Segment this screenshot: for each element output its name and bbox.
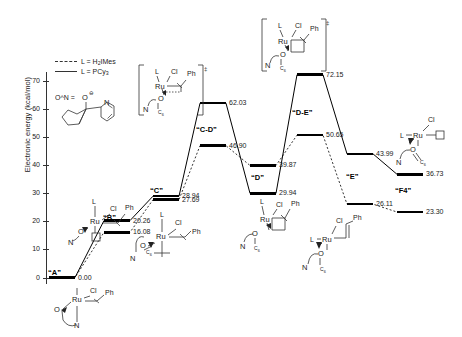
legend-swatch-dashed [55,61,77,62]
state-label-3: “C-D” [196,125,217,134]
o-label: O [318,249,324,258]
energy-level-2-pcy3 [153,195,179,198]
ph-label: Ph [310,25,319,32]
legend: L = H2IMes L = PCy3 [55,56,116,76]
energy-level-5-h2imes [297,134,323,137]
c6-label: C6 [320,266,326,274]
structure-f4: Cl L Ru O N C6 [396,108,462,168]
o-label: O [280,50,286,59]
energy-level-6-h2imes [347,203,373,206]
o-label: O [54,305,60,314]
bracket-right [198,65,203,115]
cl-label: Cl [171,68,178,75]
ru-label: Ru [278,37,288,46]
cl-label: Cl [336,217,343,224]
negative-charge-icon: ⊖ [89,90,94,96]
structure-c: L Cl Ru Ph O N C6 [130,205,212,267]
state-label-0: “A” [48,268,61,277]
structure-e: Cl Ph L Ru O N C6 [296,210,380,276]
ph-label: Ph [291,200,300,207]
structure-cd-ts: ‡ L Cl Ph Ru O N C6 [136,62,208,120]
n-label: N [302,263,307,272]
cl-label: Cl [90,287,97,294]
cl-label: Cl [175,219,182,226]
energy-profile-figure: 010203040506070 Electronic energy (kcal/… [0,0,462,337]
l-label: L [155,68,159,75]
ligand-definition: O^N = O ⊖ N [55,88,145,137]
legend-entry-h2imes: L = H2IMes [55,56,116,66]
legend-entry-pcy3: L = PCy3 [55,66,116,76]
energy-value-5-h2imes: 50.65 [326,131,344,138]
energy-value-4-h2imes: 39.87 [279,161,297,168]
energy-level-2-h2imes [153,198,179,201]
state-label-6: “E” [346,172,359,181]
energy-value-6-h2imes: 26.11 [376,200,393,207]
c6-label: C6 [420,159,426,167]
o-label: O [410,145,416,154]
n-label: N [130,254,135,263]
structure-a: Ru Cl Ph O N [50,280,130,336]
energy-level-4-h2imes [250,164,276,167]
ru-label: Ru [260,215,270,224]
ru-label: Ru [155,82,165,91]
state-label-7: “F4” [395,186,411,195]
n-label: N [265,61,270,70]
l-label: L [260,198,264,205]
energy-value-3-h2imes: 46.90 [229,142,247,149]
energy-level-7-pcy3 [397,173,423,176]
cl-label: Cl [428,116,435,123]
legend-swatch-solid [55,71,77,72]
ph-label: Ph [353,214,362,221]
cl-label: Cl [295,22,302,29]
c6-label: C6 [280,65,286,73]
n-label: N [143,105,148,114]
dagger-icon: ‡ [204,66,207,72]
structure-de-ts: ‡ L Cl Ph Ru O N C6 [258,16,332,76]
legend-label-h2imes: L = H2IMes [81,58,116,65]
l-label: L [160,211,164,218]
cl-label: Cl [276,201,283,208]
n-label: N [396,158,401,167]
legend-label-pcy3: L = PCy3 [81,68,109,75]
ru-label: Ru [72,295,82,304]
ru-label: Ru [322,235,332,244]
ph-label: Ph [105,289,114,296]
ph-label: Ph [192,228,201,235]
state-label-4: “D” [251,173,264,182]
ru-label: Ru [413,131,423,140]
energy-value-6-pcy3: 43.99 [376,150,394,157]
l-label: L [400,132,404,139]
bracket-right [321,19,326,71]
o-label: O [158,94,164,103]
ph-label: Ph [187,70,196,77]
state-label-5: “D-E” [292,108,312,117]
energy-value-2-h2imes: 27.69 [182,196,200,203]
c6-label: C6 [158,109,164,117]
energy-level-3-h2imes [200,144,226,147]
energy-value-7-pcy3: 36.73 [426,170,444,177]
vacancy-icon [436,131,444,139]
ligand-def-text: O^N = [55,94,75,101]
vacancy-icon [92,233,100,241]
energy-value-7-h2imes: 23.30 [426,208,444,215]
c6-label: C6 [254,245,260,253]
oxygen-label: O [82,93,88,102]
n-label: N [240,242,245,251]
l-label: L [310,236,314,243]
dagger-icon: ‡ [326,20,329,26]
energy-level-6-pcy3 [347,153,373,156]
o-label: O [252,229,258,238]
c6-label: C6 [146,249,152,257]
energy-level-7-h2imes [397,211,423,214]
l-label: L [92,198,96,205]
n-label: N [68,238,73,247]
ru-label: Ru [90,217,100,226]
ru-label: Ru [156,232,166,241]
state-label-2: “C” [150,186,163,195]
cl-label: Cl [110,205,117,212]
energy-value-3-pcy3: 62.03 [229,99,247,106]
l-label: L [278,22,282,29]
